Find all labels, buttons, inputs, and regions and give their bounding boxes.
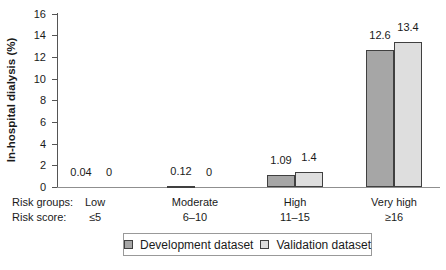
risk-score-label-moderate: 6–10 — [150, 211, 240, 224]
y-tick-label-10: 10 — [16, 72, 46, 86]
y-tick-label-16: 16 — [16, 7, 46, 21]
y-tick-mark-6 — [52, 122, 57, 123]
y-tick-mark-0 — [52, 187, 57, 188]
value-label-validation-very-high: 13.4 — [386, 21, 430, 34]
y-tick-label-0: 0 — [16, 180, 46, 194]
y-tick-label-12: 12 — [16, 50, 46, 64]
bar-development-very-high — [366, 50, 394, 187]
development-dataset-swatch — [124, 240, 133, 249]
bar-validation-high — [295, 172, 323, 187]
y-tick-label-8: 8 — [16, 93, 46, 107]
development-dataset-legend-label: Development dataset — [140, 238, 253, 252]
bar-validation-very-high — [394, 42, 422, 187]
bar-development-moderate — [167, 186, 195, 188]
bar-development-high — [267, 175, 295, 187]
y-tick-label-6: 6 — [16, 115, 46, 129]
x-axis-line — [57, 187, 440, 188]
value-label-validation-moderate: 0 — [187, 166, 231, 179]
value-label-validation-high: 1.4 — [287, 151, 331, 164]
y-tick-mark-16 — [52, 14, 57, 15]
y-tick-mark-2 — [52, 165, 57, 166]
category-label-low: Low — [50, 196, 140, 209]
category-label-high: High — [250, 196, 340, 209]
category-label-moderate: Moderate — [150, 196, 240, 209]
y-tick-mark-12 — [52, 57, 57, 58]
y-tick-label-4: 4 — [16, 137, 46, 151]
y-tick-label-2: 2 — [16, 158, 46, 172]
risk-score-label-low: ≤5 — [50, 211, 140, 224]
dialysis-risk-bar-chart: In-hospital dialysis (%) Risk groups: Ri… — [0, 0, 446, 270]
y-tick-mark-14 — [52, 35, 57, 36]
y-tick-mark-4 — [52, 144, 57, 145]
y-tick-label-14: 14 — [16, 28, 46, 42]
y-axis-line — [57, 13, 58, 188]
y-tick-mark-8 — [52, 100, 57, 101]
risk-score-label-high: 11–15 — [250, 211, 340, 224]
value-label-validation-low: 0 — [87, 166, 131, 179]
category-label-very-high: Very high — [349, 196, 439, 209]
validation-dataset-swatch — [260, 240, 269, 249]
risk-score-label-very-high: ≥16 — [349, 211, 439, 224]
y-tick-mark-10 — [52, 79, 57, 80]
legend: Development dataset Validation dataset — [123, 233, 372, 256]
validation-dataset-legend-label: Validation dataset — [276, 238, 371, 252]
